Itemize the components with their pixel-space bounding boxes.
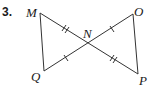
label-P: P <box>138 73 147 85</box>
label-N: N <box>82 26 93 41</box>
segment-MP <box>40 13 138 74</box>
label-Q: Q <box>31 69 41 84</box>
label-M: M <box>25 5 38 20</box>
bowtie-triangles-diagram: M N O Q P <box>0 0 148 85</box>
segment-MQ <box>40 13 44 71</box>
segment-OP <box>133 14 138 74</box>
label-O: O <box>134 4 144 19</box>
